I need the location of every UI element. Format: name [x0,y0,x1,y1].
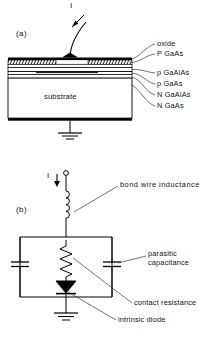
resistor-symbol [60,240,72,281]
layer-p-gaas-cap [8,64,132,67]
bond-wire-path [70,22,86,58]
annotation-parasitic-capacitance-line2: capacitance [148,259,189,268]
layer-leader-lines [132,44,155,106]
layer-label-p-gaalas: p GaAlAs [157,69,189,78]
annotation-bond-wire-inductance: bond wire inductance [120,181,200,190]
annotation-contact-resistance: contact resistance [134,299,196,308]
figure-container: (a) I substrate oxide P GaAs p GaAlAs p … [0,0,224,340]
panel-b-tag: (b) [16,206,27,215]
layer-label-n-gaas: N GaAs [157,102,184,111]
current-arrow-a [72,15,84,27]
layer-label-p-gaas: p GaAs [157,80,183,89]
layer-label-p-gaas-cap: P GaAs [157,50,183,59]
bottom-contact-metal [8,118,132,121]
inductor-symbol [66,191,69,218]
current-arrow-b [54,174,60,187]
figure-svg [0,0,224,340]
layer-p-gaalas [8,68,132,72]
ground-symbol-a [58,121,82,139]
layer-label-oxide: oxide [157,40,175,49]
substrate-label: substrate [44,93,77,102]
capacitor-left [11,237,29,297]
layer-n-gaalas [8,75,132,79]
terminal-node [64,171,69,176]
panel-b-equivalent-circuit [11,171,146,320]
current-label-b: I [47,172,49,181]
ground-symbol-b [54,313,78,320]
panel-a-tag: (a) [16,30,27,39]
annotation-intrinsic-diode: intrinsic diode [118,316,165,325]
oxide-layer [8,60,132,64]
top-contact-metal [8,53,132,61]
current-label-a: I [70,2,72,11]
layer-label-n-gaalas: N GaAlAs [157,91,191,100]
panel-a-cross-section [8,15,155,139]
